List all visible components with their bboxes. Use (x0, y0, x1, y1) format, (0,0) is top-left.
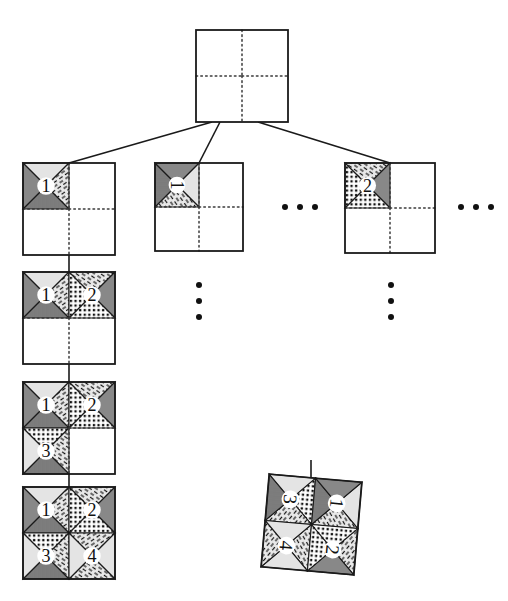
ellipsis-dot (196, 298, 202, 304)
ellipsis-horizontal-right (458, 204, 494, 210)
rotated-result-square[interactable]: 3142 (261, 474, 362, 575)
tile-label: 3 (279, 494, 301, 505)
ellipsis-dot (458, 204, 464, 210)
edge-root-to-child-3 (258, 122, 390, 163)
tile-label: 1 (42, 176, 51, 196)
child-square-2[interactable]: 1 (155, 163, 243, 251)
ellipsis-dot (388, 282, 394, 288)
tile-label: 4 (88, 546, 97, 566)
ellipsis-horizontal-middle (282, 204, 318, 210)
ellipsis-dot (312, 204, 318, 210)
tile-label: 2 (322, 544, 344, 555)
ellipsis-dot (196, 282, 202, 288)
tile-label: 2 (363, 176, 372, 196)
child-square-1[interactable]: 1 (23, 163, 115, 255)
figure-canvas: Recursive quadrant subdivision tree (0, 0, 508, 601)
tile-label: 1 (42, 395, 51, 415)
child-square-3[interactable]: 2 (345, 163, 435, 253)
tile-label: 1 (167, 181, 187, 190)
ellipsis-dot (473, 204, 479, 210)
chain-square-3[interactable]: 1234 (23, 487, 115, 579)
nodes-layer: 1121212312343142 (23, 30, 435, 579)
ellipsis-dot (488, 204, 494, 210)
edge-root-to-child-2 (199, 122, 220, 163)
tile-label: 1 (326, 498, 348, 509)
tree-diagram-svg: 1121212312343142 (0, 0, 508, 601)
tile-label: 3 (42, 441, 51, 461)
tile-label: 1 (42, 500, 51, 520)
ellipsis-vertical-left (196, 282, 202, 320)
chain-square-1[interactable]: 12 (23, 272, 115, 364)
ellipsis-dot (388, 298, 394, 304)
tile-label: 1 (42, 285, 51, 305)
edge-root-to-child-1 (69, 122, 212, 163)
ellipsis-dot (196, 314, 202, 320)
tile-label: 2 (88, 500, 97, 520)
tile-label: 3 (42, 546, 51, 566)
ellipsis-vertical-right (388, 282, 394, 320)
chain-square-2[interactable]: 123 (23, 382, 115, 474)
tile-label: 2 (88, 395, 97, 415)
ellipsis-dot (282, 204, 288, 210)
ellipsis-dot (297, 204, 303, 210)
tile-label: 2 (88, 285, 97, 305)
root-square[interactable] (196, 30, 288, 122)
ellipsis-dot (388, 314, 394, 320)
